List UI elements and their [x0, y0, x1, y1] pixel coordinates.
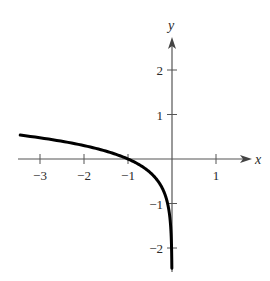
x-tick-label: −1 [121, 168, 135, 183]
y-tick-label: −1 [149, 197, 163, 212]
x-tick-label: −3 [33, 168, 47, 183]
y-tick-label: 2 [157, 63, 164, 78]
y-tick-label: −2 [149, 241, 163, 256]
x-tick-label: −2 [77, 168, 91, 183]
y-axis-label: y [166, 18, 175, 33]
x-axis-label: x [254, 152, 262, 167]
y-tick-label: 1 [157, 108, 164, 123]
x-tick-label: 1 [213, 168, 220, 183]
function-graph: x y −3−2−11 21−1−2 [0, 0, 270, 281]
